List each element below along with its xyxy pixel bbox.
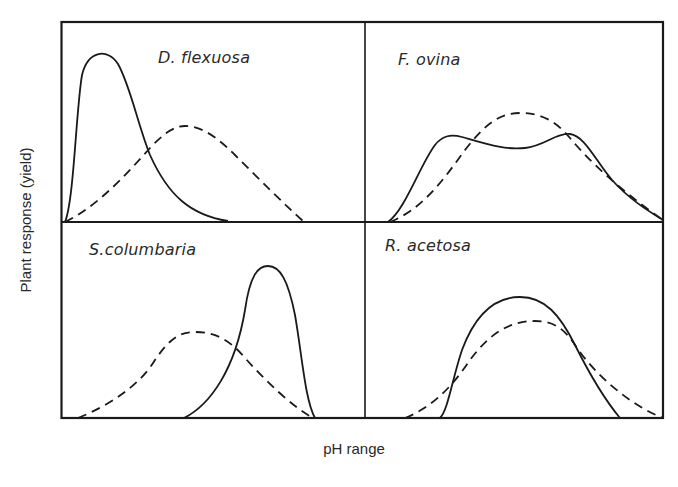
y-axis-label: Plant response (yield) [17,147,34,292]
s-columbaria-dashed-curve [78,332,313,418]
f-ovina-solid-curve [388,134,663,222]
panel-label-d-flexuosa: D. flexuosa [158,48,250,67]
panel-s-columbaria [78,266,315,418]
r-acetosa-dashed-curve [405,321,663,418]
panel-label-s-columbaria: S.columbaria [89,240,196,259]
d-flexuosa-solid-curve [65,54,228,222]
s-columbaria-solid-curve [184,266,315,418]
panel-label-f-ovina: F. ovina [398,50,461,69]
panel-label-r-acetosa: R. acetosa [385,236,471,255]
f-ovina-dashed-curve [390,113,663,222]
x-axis-label: pH range [0,440,678,457]
panel-f-ovina [388,113,663,222]
chart-frame [62,22,664,418]
r-acetosa-solid-curve [440,297,620,418]
d-flexuosa-dashed-curve [65,126,303,222]
panel-r-acetosa [405,297,663,418]
figure: D. flexuosa F. ovina S.columbaria R. ace… [0,0,678,487]
panel-d-flexuosa [65,54,303,222]
